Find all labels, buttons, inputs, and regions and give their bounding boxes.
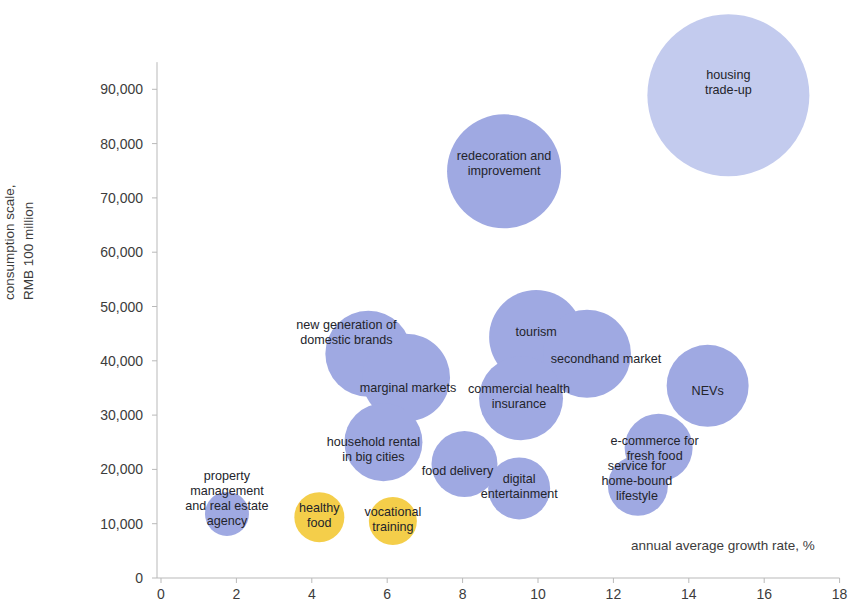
y-tick-label: 40,000	[100, 353, 143, 369]
x-axis-tick-labels: 024681012141618	[157, 578, 847, 602]
y-axis-title-line1: consumption scale,	[2, 184, 17, 300]
y-tick-label: 90,000	[100, 81, 143, 97]
chart-canvas: 010,00020,00030,00040,00050,00060,00070,…	[0, 0, 850, 604]
x-tick-label: 14	[681, 586, 697, 602]
y-tick-label: 10,000	[100, 516, 143, 532]
y-tick-label: 0	[135, 570, 143, 586]
y-axis-title-line2: RMB 100 million	[21, 202, 36, 300]
y-tick-label: 80,000	[100, 136, 143, 152]
bubble[interactable]	[431, 431, 497, 497]
x-tick-label: 18	[832, 586, 848, 602]
bubble[interactable]	[479, 356, 563, 440]
x-tick-label: 6	[383, 586, 391, 602]
bubble[interactable]	[447, 114, 561, 228]
y-tick-label: 20,000	[100, 461, 143, 477]
y-axis-tick-labels: 010,00020,00030,00040,00050,00060,00070,…	[100, 81, 157, 586]
x-axis-title: annual average growth rate, %	[631, 538, 815, 553]
bubble[interactable]	[344, 403, 422, 481]
bubble[interactable]	[488, 457, 550, 519]
y-tick-label: 60,000	[100, 244, 143, 260]
bubble[interactable]	[608, 456, 668, 516]
bubble[interactable]	[647, 14, 809, 176]
x-tick-label: 16	[756, 586, 772, 602]
bubble[interactable]	[294, 492, 344, 542]
bubble[interactable]	[205, 492, 249, 536]
x-tick-label: 10	[530, 586, 546, 602]
x-tick-label: 4	[308, 586, 316, 602]
bubble[interactable]	[667, 345, 749, 427]
x-tick-label: 2	[233, 586, 241, 602]
x-tick-label: 0	[157, 586, 165, 602]
bubble-chart: 010,00020,00030,00040,00050,00060,00070,…	[0, 0, 850, 604]
bubble[interactable]	[369, 497, 417, 545]
y-tick-label: 50,000	[100, 299, 143, 315]
x-tick-label: 8	[459, 586, 467, 602]
bubble-label-line: property	[204, 469, 251, 483]
bubble-series	[205, 14, 809, 545]
x-tick-label: 12	[606, 586, 622, 602]
y-tick-label: 70,000	[100, 190, 143, 206]
y-tick-label: 30,000	[100, 407, 143, 423]
